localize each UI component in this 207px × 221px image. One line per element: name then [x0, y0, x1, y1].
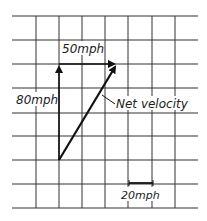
net-velocity-leader-line	[102, 95, 115, 104]
scale-bar-label: 20mph	[121, 189, 160, 202]
north-velocity-label: 80mph	[16, 93, 58, 107]
grid	[12, 16, 198, 208]
net-velocity-label: Net velocity	[116, 97, 189, 111]
velocity-vector-diagram: 50mph 80mph Net velocity 20mph	[0, 0, 207, 221]
east-velocity-label: 50mph	[62, 42, 104, 56]
